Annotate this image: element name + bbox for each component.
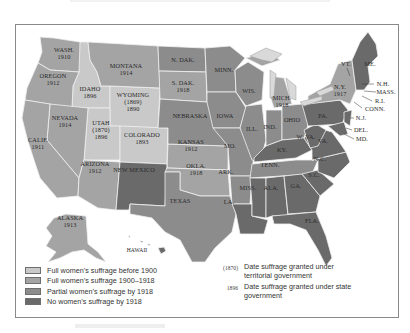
label-calif-year: 1911: [32, 143, 45, 150]
label-ind: IND.: [263, 123, 276, 130]
note-text: Date suffrage granted under territorial …: [244, 263, 354, 280]
label-tenn: TENN.: [261, 161, 280, 168]
state-florida: [272, 212, 332, 266]
label-n-dak: N. DAK.: [171, 56, 195, 63]
swatch-before-1900: [25, 267, 41, 274]
label-sc: S.C.: [308, 171, 320, 178]
label-montana: MONTANA: [110, 62, 143, 69]
swatch-partial: [25, 288, 41, 295]
label-hawaii: HAWAII: [127, 247, 148, 253]
label-oregon: OREGON: [40, 72, 67, 79]
label-pa: PA.: [318, 112, 328, 119]
label-ill: ILL.: [246, 125, 258, 132]
label-wva: W. VA.: [297, 133, 316, 140]
swatch-1900-1918: [25, 277, 41, 284]
label-minn: MINN.: [215, 66, 234, 73]
swatch-none: [25, 298, 41, 305]
label-ga: GA.: [291, 182, 302, 189]
label-nevada-year: 1914: [59, 121, 73, 128]
label-fla: FLA.: [305, 217, 319, 224]
label-arizona-year: 1912: [89, 167, 102, 174]
legend-label: Full women’s suffrage 1900–1918: [47, 276, 155, 285]
label-alaska: ALASKA: [57, 214, 83, 221]
label-wis: WIS.: [242, 87, 256, 94]
label-wash: WASH.: [54, 46, 74, 53]
label-vt: VT.: [341, 60, 351, 67]
label-mo: MO.: [224, 142, 236, 149]
label-arizona: ARIZONA: [80, 160, 109, 167]
label-va: VA.: [318, 137, 328, 144]
label-wyoming: WYOMING: [117, 91, 150, 98]
label-ny-year: 1917: [334, 90, 347, 97]
legend-item: No women’s suffrage by 1918: [25, 297, 157, 308]
label-montana-year: 1914: [120, 69, 134, 76]
label-md: MD.: [356, 135, 368, 142]
label-nh: N.H.: [377, 80, 390, 87]
label-me: ME.: [364, 60, 376, 67]
note-state: 1896 Date suffrage granted under state g…: [211, 283, 354, 300]
label-la: LA.: [224, 198, 235, 205]
label-nj: N.J.: [356, 114, 367, 121]
label-okla-year: 1918: [190, 169, 203, 176]
legend-item: Partial women’s suffrage by 1918: [25, 286, 157, 297]
label-nevada: NEVADA: [52, 114, 79, 121]
legend-label: Partial women’s suffrage by 1918: [47, 287, 153, 296]
legend: Full women’s suffrage before 1900 Full w…: [25, 265, 157, 307]
label-s-dak: S. DAK.: [172, 79, 195, 86]
label-utah: UTAH: [92, 119, 110, 126]
label-ri: R.I.: [375, 97, 385, 104]
legend-label: Full women’s suffrage before 1900: [47, 266, 157, 275]
label-ala: ALA.: [264, 184, 279, 191]
label-idaho-year: 1896: [84, 92, 97, 99]
label-alaska-year: 1913: [64, 221, 77, 228]
legend-item: Full women’s suffrage before 1900: [25, 265, 157, 276]
label-idaho: IDAHO: [80, 85, 101, 92]
label-mich-year: 1918: [276, 101, 289, 108]
label-ny: N.Y.: [334, 83, 346, 90]
label-wash-year: 1910: [58, 53, 71, 60]
label-mass: MASS.: [376, 88, 396, 95]
label-wyoming-year: 1890: [127, 105, 140, 112]
label-iowa: IOWA: [217, 112, 234, 119]
label-new-mexico: NEW MEXICO: [113, 166, 155, 173]
note-text: Date suffrage granted under state govern…: [244, 283, 354, 300]
label-utah-year: 1896: [95, 133, 108, 140]
label-nc: N.C.: [314, 155, 327, 162]
label-conn: CONN.: [365, 105, 385, 112]
cropped-bottom-text: [75, 324, 165, 328]
label-kansas-year: 1912: [185, 145, 198, 152]
label-kansas: KANSAS: [178, 138, 204, 145]
note-territorial: (1870) Date suffrage granted under terri…: [211, 263, 354, 280]
label-oregon-year: 1912: [47, 79, 60, 86]
label-calif: CALIF.: [28, 136, 48, 143]
label-colorado: COLORADO: [124, 131, 160, 138]
label-okla: OKLA.: [186, 162, 206, 169]
note-key: 1896: [211, 283, 244, 300]
legend-item: Full women’s suffrage 1900–1918: [25, 276, 157, 287]
label-ky: KY.: [277, 146, 287, 153]
label-nebraska: NEBRASKA: [173, 112, 208, 119]
note-key: (1870): [211, 263, 244, 280]
label-ark: ARK.: [218, 168, 234, 175]
label-texas: TEXAS: [170, 197, 191, 204]
label-s-dak-year: 1918: [177, 86, 190, 93]
label-del: DEL.: [354, 126, 369, 133]
label-miss: MISS.: [240, 184, 257, 191]
label-mich: MICH.: [273, 94, 292, 101]
legend-label: No women’s suffrage by 1918: [47, 297, 142, 306]
label-ohio: OHIO: [284, 116, 300, 123]
label-colorado-year: 1893: [136, 138, 149, 145]
legend-notes: (1870) Date suffrage granted under terri…: [211, 263, 354, 303]
